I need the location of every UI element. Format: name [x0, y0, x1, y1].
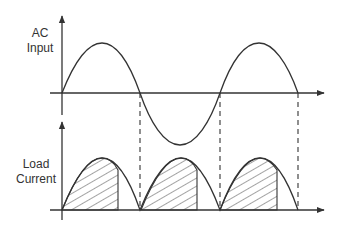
hatched-region-3	[220, 158, 277, 210]
top-axes	[50, 16, 324, 115]
waveform-diagram	[0, 0, 341, 233]
hatched-region-2	[141, 158, 197, 210]
hatched-region-1	[62, 158, 118, 210]
ac-input-waveform	[62, 43, 298, 145]
